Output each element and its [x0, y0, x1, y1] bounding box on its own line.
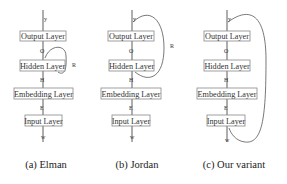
edge-label-o: O — [129, 48, 134, 54]
caption-jordan: (b) Jordan — [116, 159, 160, 171]
embedding-layer-label: Embedding Layer — [102, 90, 161, 99]
hidden-layer-label: Hidden Layer — [109, 62, 155, 71]
panel-jordan: Output Layer Hidden Layer Embedding Laye… — [101, 10, 174, 171]
edge-label-h: H — [40, 77, 45, 83]
panel-our-variant: Output Layer Hidden Layer Embedding Laye… — [197, 10, 266, 171]
embedding-layer-label: Embedding Layer — [198, 90, 257, 99]
edge-label-y: y — [44, 16, 47, 22]
edge-label-w: w — [41, 134, 46, 140]
edge-label-e: E — [40, 105, 44, 111]
input-layer-label: Input Layer — [24, 117, 63, 126]
edge-label-y: y — [133, 16, 136, 22]
hidden-layer-label: Hidden Layer — [204, 62, 250, 71]
edge-label-o: O — [40, 48, 45, 54]
rnn-variants-diagram: Output Layer Hidden Layer Embedding Laye… — [0, 0, 287, 184]
input-layer-label: Input Layer — [207, 117, 246, 126]
output-layer-label: Output Layer — [205, 32, 249, 41]
recurrence-label: R — [72, 62, 76, 68]
edge-label-h: H — [224, 77, 229, 83]
edge-label-o: O — [224, 48, 229, 54]
edge-label-w: w — [130, 134, 135, 140]
edge-label-h: H — [129, 77, 134, 83]
input-layer-label: Input Layer — [112, 117, 151, 126]
panel-elman: Output Layer Hidden Layer Embedding Laye… — [14, 10, 76, 171]
caption-elman: (a) Elman — [25, 159, 67, 171]
output-layer-label: Output Layer — [109, 32, 153, 41]
recurrence-label: R — [170, 43, 174, 49]
embedding-layer-label: Embedding Layer — [14, 90, 73, 99]
edge-label-e: E — [224, 105, 228, 111]
edge-label-y: y — [228, 16, 231, 22]
hidden-layer-label: Hidden Layer — [20, 62, 66, 71]
edge-label-e: E — [129, 105, 133, 111]
output-layer-label: Output Layer — [21, 32, 65, 41]
edge-label-w: w — [225, 137, 230, 143]
caption-our-variant: (c) Our variant — [203, 159, 265, 171]
